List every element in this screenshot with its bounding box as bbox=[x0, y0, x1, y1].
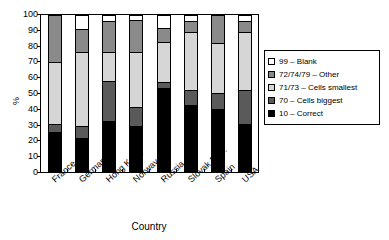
legend-item-label: 72/74/79 – Other bbox=[279, 71, 339, 79]
y-tick-mark bbox=[37, 93, 41, 94]
bar-segment-biggest bbox=[130, 107, 142, 126]
y-tick-mark bbox=[37, 46, 41, 47]
legend-item[interactable]: 99 – Blank bbox=[268, 55, 376, 68]
bar-segment-smallest bbox=[130, 52, 142, 107]
bar-segment-smallest bbox=[212, 43, 224, 93]
y-tick-mark bbox=[37, 109, 41, 110]
bar-segment-other bbox=[130, 20, 142, 53]
bar-segment-biggest bbox=[158, 82, 170, 88]
bar-slot bbox=[177, 14, 204, 172]
bar-segment-other bbox=[239, 21, 251, 32]
bar-segment-correct bbox=[49, 132, 61, 171]
bar-segment-other bbox=[212, 15, 224, 43]
bar-segment-smallest bbox=[49, 62, 61, 124]
bar-segment-biggest bbox=[103, 81, 115, 122]
stacked-bar[interactable] bbox=[157, 14, 171, 172]
bar-segment-blank bbox=[185, 15, 197, 21]
stacked-bar[interactable] bbox=[238, 14, 252, 172]
stacked-bar[interactable] bbox=[184, 14, 198, 172]
bar-segment-correct bbox=[76, 138, 88, 171]
y-tick-label: 30 bbox=[14, 121, 38, 130]
legend-item[interactable]: 72/74/79 – Other bbox=[268, 68, 376, 81]
bar-segment-other bbox=[158, 28, 170, 42]
y-tick-label: 100 bbox=[14, 10, 38, 19]
stacked-bar[interactable] bbox=[48, 14, 62, 172]
y-tick-mark bbox=[37, 156, 41, 157]
bar-slot bbox=[41, 14, 68, 172]
bar-slot bbox=[232, 14, 259, 172]
bar-segment-smallest bbox=[76, 52, 88, 125]
bar-slot bbox=[150, 14, 177, 172]
bar-segment-biggest bbox=[49, 124, 61, 132]
bar-segment-blank bbox=[76, 15, 88, 29]
y-axis-tick-labels: 0102030405060708090100 bbox=[14, 14, 38, 172]
bar-segment-correct bbox=[239, 124, 251, 171]
y-tick-mark bbox=[37, 30, 41, 31]
legend-item-label: 70 – Cells biggest bbox=[279, 97, 343, 105]
bar-segment-blank bbox=[103, 15, 115, 21]
bar-segment-blank bbox=[158, 15, 170, 27]
y-tick-mark bbox=[37, 14, 41, 15]
chart-legend: 99 – Blank72/74/79 – Other71/73 – Cells … bbox=[264, 50, 380, 125]
bar-segment-smallest bbox=[158, 42, 170, 83]
stacked-bar[interactable] bbox=[102, 14, 116, 172]
bar-slot bbox=[96, 14, 123, 172]
bar-segment-other bbox=[49, 15, 61, 62]
y-tick-label: 0 bbox=[14, 168, 38, 177]
y-tick-label: 80 bbox=[14, 42, 38, 51]
legend-item-label: 99 – Blank bbox=[279, 58, 317, 66]
bar-segment-blank bbox=[130, 15, 142, 20]
bar-segment-blank bbox=[239, 15, 251, 21]
legend-item[interactable]: 10 – Correct bbox=[268, 107, 376, 120]
bar-segment-smallest bbox=[103, 52, 115, 80]
bar-segment-biggest bbox=[185, 90, 197, 106]
x-axis-title: Country bbox=[40, 221, 258, 232]
y-tick-mark bbox=[37, 77, 41, 78]
y-tick-label: 40 bbox=[14, 105, 38, 114]
bar-segment-other bbox=[103, 21, 115, 52]
x-axis-tick-labels: FranceGermanyHong KongNorwayRussiaSlovak… bbox=[40, 173, 258, 221]
legend-item-label: 71/73 – Cells smallest bbox=[279, 84, 357, 92]
y-tick-mark bbox=[37, 140, 41, 141]
y-tick-label: 60 bbox=[14, 73, 38, 82]
bar-segment-other bbox=[76, 29, 88, 52]
y-tick-mark bbox=[37, 61, 41, 62]
legend-item-label: 10 – Correct bbox=[279, 110, 323, 118]
y-tick-mark bbox=[37, 125, 41, 126]
bar-segment-biggest bbox=[239, 90, 251, 124]
bar-segment-biggest bbox=[76, 126, 88, 138]
legend-swatch-biggest bbox=[268, 97, 275, 104]
legend-swatch-blank bbox=[268, 58, 275, 65]
y-tick-label: 10 bbox=[14, 152, 38, 161]
bar-segment-correct bbox=[185, 105, 197, 171]
legend-item[interactable]: 71/73 – Cells smallest bbox=[268, 81, 376, 94]
legend-swatch-other bbox=[268, 71, 275, 78]
bar-segment-other bbox=[185, 21, 197, 32]
bar-segment-smallest bbox=[185, 32, 197, 90]
legend-item[interactable]: 70 – Cells biggest bbox=[268, 94, 376, 107]
legend-swatch-correct bbox=[268, 110, 275, 117]
y-tick-label: 90 bbox=[14, 26, 38, 35]
bar-segment-biggest bbox=[212, 93, 224, 109]
bar-slot bbox=[68, 14, 95, 172]
stacked-bar-chart: % 0102030405060708090100 FranceGermanyHo… bbox=[0, 0, 389, 240]
y-tick-label: 50 bbox=[14, 89, 38, 98]
stacked-bar[interactable] bbox=[75, 14, 89, 172]
y-tick-label: 70 bbox=[14, 57, 38, 66]
bar-segment-smallest bbox=[239, 32, 251, 90]
y-tick-label: 20 bbox=[14, 136, 38, 145]
bar-segment-correct bbox=[158, 88, 170, 171]
legend-swatch-smallest bbox=[268, 84, 275, 91]
